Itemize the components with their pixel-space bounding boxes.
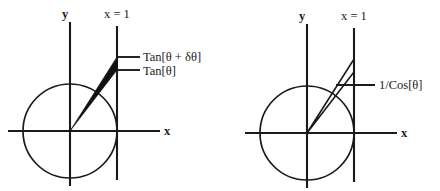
callout-tan-theta: Tan[θ] [143,64,176,78]
vertical-line-label-left: x = 1 [104,7,130,21]
secant-panel: y x x = 1 1/Cos[θ] [245,9,423,188]
callout-tan-theta-delta: Tan[θ + δθ] [143,50,201,64]
callout-one-over-cos-theta: 1/Cos[θ] [379,78,423,92]
math-figure-container: y x x = 1 Tan[θ + δθ] Tan[θ] y x x = 1 1… [0,0,440,191]
tangent-increment-wedge [70,57,117,131]
vertical-line-label-right: x = 1 [341,9,367,23]
x-axis-label-right: x [401,126,408,140]
x-axis-label-left: x [164,124,171,138]
y-axis-label-right: y [299,9,306,23]
diagram-canvas: y x x = 1 Tan[θ + δθ] Tan[θ] y x x = 1 1… [0,0,440,191]
tangent-increment-panel: y x x = 1 Tan[θ + δθ] Tan[θ] [8,7,201,186]
secant-triangle-outline [307,59,354,133]
y-axis-label-left: y [62,7,69,21]
